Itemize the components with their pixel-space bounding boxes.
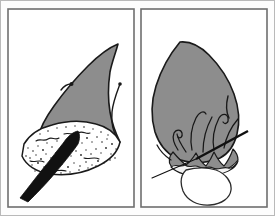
exposed-crown [181,168,231,205]
surgical-figure [0,0,275,216]
flap-crease-dot-left [118,82,122,86]
panel-left [8,9,134,207]
flap-apex-dot-left [70,82,74,86]
panel-right [141,9,267,207]
figure-canvas [0,0,275,216]
